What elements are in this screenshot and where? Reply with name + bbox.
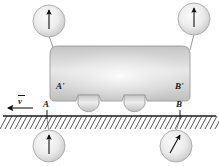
point-a-prime-label: A' [56,82,65,91]
inset-a [33,130,65,162]
point-b-prime-label: B' [175,82,184,91]
point-a-label: A [43,100,49,109]
wheel-right [124,95,145,112]
inset-b [160,130,192,162]
inset-b-prime [178,3,210,35]
ground [0,110,219,129]
inset-a-prime [33,5,65,37]
cart-body [50,46,190,101]
point-b-label: B [176,100,182,109]
velocity-label: v [18,97,22,106]
leader-line-b-prime [190,34,194,50]
wheel-left [78,95,99,112]
diagram-canvas [0,0,219,166]
ground-hatching [0,116,219,129]
physics-diagram: v A B A' B' [0,0,219,166]
velocity-vector-bar [18,95,25,96]
inset-circle [160,130,192,162]
